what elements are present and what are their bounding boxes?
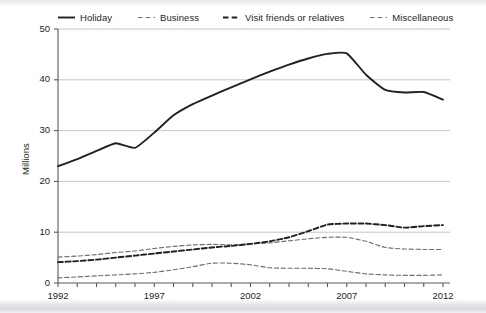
y-tick-label: 20 (24, 175, 50, 186)
y-tick-label: 30 (24, 124, 50, 135)
x-tick-label: 2007 (327, 290, 367, 301)
series-line-visit-friends-or-relatives (58, 223, 443, 262)
plot-area (0, 0, 486, 313)
y-tick-label: 50 (24, 23, 50, 34)
y-tick-label: 40 (24, 73, 50, 84)
x-tick-label: 2012 (423, 290, 463, 301)
x-tick-label: 1997 (134, 290, 174, 301)
series-line-miscellaneous (58, 263, 443, 278)
line-chart-figure: HolidayBusinessVisit friends or relative… (0, 0, 486, 313)
x-tick-label: 1992 (38, 290, 78, 301)
series-line-holiday (58, 53, 443, 167)
y-tick-label: 0 (24, 277, 50, 288)
x-tick-label: 2002 (231, 290, 271, 301)
y-tick-label: 10 (24, 226, 50, 237)
series-line-business (58, 237, 443, 257)
